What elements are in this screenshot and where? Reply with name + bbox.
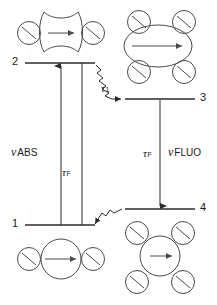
level-label-4: 4	[200, 202, 206, 213]
tau-f-right-label: τF	[143, 148, 152, 159]
level-label-3: 3	[200, 92, 206, 103]
state-excited-relaxed	[124, 11, 196, 84]
tau-subscript: 1	[105, 86, 109, 93]
nu-abs-text: ABS	[17, 147, 37, 158]
energy-level-diagram: 2 3 1 4 νABS νFLUO τF τF τ1	[0, 0, 217, 305]
nu-fluo-text: FLUO	[174, 147, 201, 158]
tau-subscript: F	[147, 151, 152, 158]
level-label-1: 1	[12, 218, 18, 229]
state-excited-distorted	[18, 12, 105, 52]
state-ground-compact	[18, 239, 105, 279]
nonradiative-arrow-lower	[95, 209, 122, 224]
absorption-frequency-label: νABS	[11, 146, 37, 158]
tau-subscript: F	[66, 170, 71, 177]
level-label-2: 2	[12, 56, 18, 67]
tau-f-left-label: τF	[62, 167, 71, 178]
state-ground-solvated	[126, 222, 195, 294]
tau-1-label: τ1	[101, 83, 109, 94]
fluorescence-frequency-label: νFLUO	[168, 146, 201, 158]
